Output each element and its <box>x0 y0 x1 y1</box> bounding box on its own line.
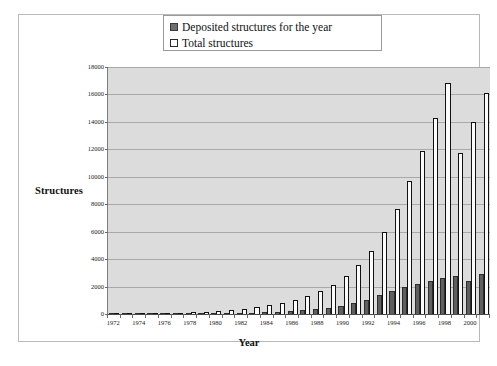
bar-group <box>235 67 248 314</box>
bar-group <box>337 67 350 314</box>
bar-group <box>299 67 312 314</box>
x-tick-mark <box>425 314 426 318</box>
bar-group <box>223 67 236 314</box>
x-tick-label: 1984 <box>260 319 273 326</box>
bar-group <box>248 67 261 314</box>
bar-group <box>324 67 337 314</box>
y-tick-label: 6000 <box>91 229 104 236</box>
bar-total <box>458 153 463 314</box>
bar-total <box>369 251 374 314</box>
x-tick-mark <box>120 314 121 318</box>
x-tick-mark <box>400 314 401 318</box>
bar-series-container <box>108 67 490 314</box>
x-tick-label: 1974 <box>132 319 145 326</box>
bar-group <box>465 67 478 314</box>
x-tick-mark <box>209 314 210 318</box>
x-tick-mark <box>476 314 477 318</box>
bar-total <box>484 93 489 314</box>
bar-total <box>382 232 387 314</box>
bar-group <box>184 67 197 314</box>
x-tick-mark <box>285 314 286 318</box>
x-tick-label: 1986 <box>285 319 298 326</box>
bar-total <box>293 300 298 314</box>
y-tick-label: 2000 <box>91 284 104 291</box>
y-tick-label: 16000 <box>88 91 104 98</box>
x-tick-mark <box>107 314 108 318</box>
x-tick-label: 1998 <box>438 319 451 326</box>
x-tick-mark <box>132 314 133 318</box>
x-tick-mark <box>489 314 490 318</box>
y-tick-label: 18000 <box>88 64 104 71</box>
y-tick-label: 10000 <box>88 174 104 181</box>
x-tick-mark <box>374 314 375 318</box>
bar-total <box>433 118 438 314</box>
bar-group <box>121 67 134 314</box>
bar-group <box>477 67 490 314</box>
bar-group <box>133 67 146 314</box>
x-tick-mark <box>323 314 324 318</box>
x-tick-label: 1976 <box>158 319 171 326</box>
legend-item-deposited: Deposited structures for the year <box>170 19 381 34</box>
legend-label-total: Total structures <box>182 37 253 49</box>
x-tick-label: 1980 <box>209 319 222 326</box>
bar-total <box>267 305 272 314</box>
plot-area: 0200040006000800010000120001400016000180… <box>107 67 490 315</box>
bar-group <box>210 67 223 314</box>
x-tick-mark <box>387 314 388 318</box>
x-tick-mark <box>234 314 235 318</box>
bar-total <box>331 285 336 314</box>
open-white-swatch-icon <box>170 39 178 47</box>
y-axis-title: Structures <box>35 185 83 196</box>
bar-group <box>401 67 414 314</box>
bar-group <box>274 67 287 314</box>
bar-group <box>439 67 452 314</box>
bar-total <box>280 303 285 314</box>
x-tick-mark <box>145 314 146 318</box>
legend-label-deposited: Deposited structures for the year <box>182 21 332 33</box>
x-tick-mark <box>349 314 350 318</box>
x-tick-label: 1992 <box>362 319 375 326</box>
x-tick-label: 1996 <box>412 319 425 326</box>
bar-group <box>414 67 427 314</box>
y-tick-label: 8000 <box>91 201 104 208</box>
y-tick-label: 12000 <box>88 146 104 153</box>
bar-group <box>197 67 210 314</box>
bar-total <box>254 307 259 314</box>
x-tick-mark <box>451 314 452 318</box>
bar-total <box>356 265 361 314</box>
bar-group <box>375 67 388 314</box>
y-tick-label: 14000 <box>88 119 104 126</box>
bar-total <box>395 209 400 314</box>
x-axis: 1972197419761978198019821984198619881990… <box>107 314 489 336</box>
bar-group <box>350 67 363 314</box>
x-tick-mark <box>196 314 197 318</box>
bar-group <box>146 67 159 314</box>
x-tick-label: 1994 <box>387 319 400 326</box>
chart-frame: Deposited structures for the year Total … <box>18 14 480 342</box>
bar-group <box>261 67 274 314</box>
x-tick-mark <box>183 314 184 318</box>
bar-total <box>471 122 476 314</box>
chart-legend: Deposited structures for the year Total … <box>163 15 382 51</box>
bar-group <box>108 67 121 314</box>
x-tick-label: 1988 <box>311 319 324 326</box>
bar-group <box>172 67 185 314</box>
y-tick-label: 4000 <box>91 256 104 263</box>
x-tick-mark <box>260 314 261 318</box>
x-tick-label: 2000 <box>463 319 476 326</box>
x-tick-mark <box>362 314 363 318</box>
x-tick-label: 1982 <box>234 319 247 326</box>
x-tick-mark <box>311 314 312 318</box>
bar-group <box>286 67 299 314</box>
x-tick-mark <box>171 314 172 318</box>
bar-total <box>305 296 310 314</box>
bar-total <box>445 83 450 314</box>
bar-group <box>312 67 325 314</box>
bar-group <box>388 67 401 314</box>
bar-group <box>426 67 439 314</box>
y-tick-label: 0 <box>101 311 104 318</box>
bar-total <box>318 291 323 314</box>
x-tick-mark <box>464 314 465 318</box>
bar-total <box>407 181 412 314</box>
legend-item-total: Total structures <box>170 35 381 50</box>
